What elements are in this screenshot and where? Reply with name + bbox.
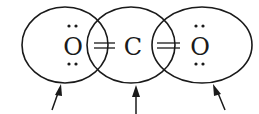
- lone-pair-dot: [201, 24, 204, 27]
- lone-pair-dot: [201, 62, 204, 65]
- arrow-head-icon: [132, 85, 140, 97]
- right-double-bond: [157, 43, 180, 48]
- arrow-shaft: [218, 93, 225, 110]
- lone-pair-dot: [74, 62, 77, 65]
- arrow-head-icon: [213, 84, 221, 96]
- arrow-head-icon: [55, 84, 62, 96]
- right-oxygen-symbol: O: [190, 33, 210, 61]
- co2-lewis-structure-diagram: O C O: [0, 0, 259, 114]
- right-oxygen-atom: O: [190, 24, 210, 65]
- left-arrow: [52, 84, 62, 110]
- lone-pair-dot: [194, 62, 197, 65]
- left-double-bond: [94, 43, 115, 48]
- left-oxygen-atom: O: [63, 24, 83, 65]
- middle-arrow: [132, 85, 140, 114]
- arrow-shaft: [52, 93, 58, 110]
- right-arrow: [213, 84, 225, 110]
- lone-pair-dot: [67, 24, 70, 27]
- lone-pair-dot: [67, 62, 70, 65]
- lone-pair-dot: [194, 24, 197, 27]
- lone-pair-dot: [74, 24, 77, 27]
- carbon-symbol: C: [124, 33, 142, 61]
- carbon-atom: C: [124, 33, 142, 61]
- left-oxygen-symbol: O: [63, 33, 83, 61]
